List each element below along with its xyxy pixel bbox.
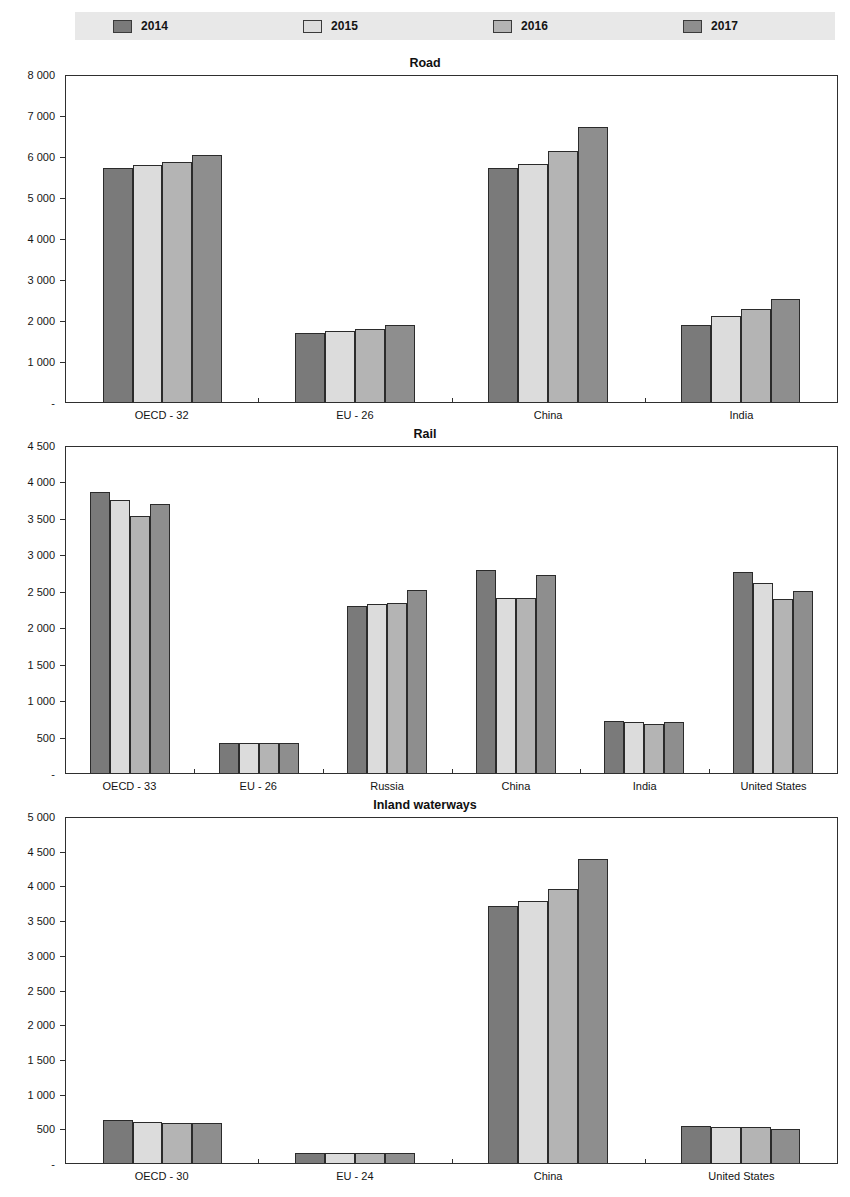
bar-2014[interactable] bbox=[681, 1126, 711, 1163]
y-tick-label: 1 000 bbox=[27, 1089, 55, 1100]
bar-group bbox=[644, 76, 837, 402]
x-axis-road: OECD - 32EU - 26ChinaIndia bbox=[65, 405, 838, 425]
legend-label: 2016 bbox=[521, 20, 548, 32]
bar-2015[interactable] bbox=[711, 316, 741, 402]
bar-2015[interactable] bbox=[133, 165, 163, 402]
x-axis-tick bbox=[323, 769, 324, 774]
bar-2015[interactable] bbox=[518, 901, 548, 1163]
bar-2015[interactable] bbox=[624, 722, 644, 773]
y-tick-label: - bbox=[51, 769, 55, 780]
bar-2017[interactable] bbox=[150, 504, 170, 773]
bars-container bbox=[347, 447, 427, 773]
bar-2014[interactable] bbox=[295, 1153, 325, 1163]
bar-2016[interactable] bbox=[355, 329, 385, 402]
bar-2017[interactable] bbox=[793, 591, 813, 773]
bar-2015[interactable] bbox=[753, 583, 773, 773]
legend-label: 2014 bbox=[141, 20, 168, 32]
bar-2017[interactable] bbox=[664, 722, 684, 773]
chart-block-rail: Rail -5001 0001 5002 0002 5003 0003 5004… bbox=[0, 427, 850, 799]
bar-2016[interactable] bbox=[355, 1153, 385, 1163]
bar-2015[interactable] bbox=[518, 164, 548, 402]
bars-container bbox=[103, 76, 223, 402]
bar-group bbox=[644, 818, 837, 1163]
bar-2016[interactable] bbox=[773, 599, 793, 773]
bar-2015[interactable] bbox=[239, 743, 259, 773]
bar-2016[interactable] bbox=[741, 309, 771, 402]
bar-2015[interactable] bbox=[325, 1153, 355, 1163]
y-tick-label: 4 000 bbox=[27, 477, 55, 488]
bar-2014[interactable] bbox=[295, 333, 325, 402]
chart-block-inland-waterways: Inland waterways -5001 0001 5002 0002 50… bbox=[0, 798, 850, 1188]
bar-2016[interactable] bbox=[741, 1127, 771, 1163]
bar-2016[interactable] bbox=[548, 151, 578, 402]
y-tick-label: 4 500 bbox=[27, 441, 55, 452]
legend-item-2014[interactable]: 2014 bbox=[75, 20, 265, 33]
x-axis-tick bbox=[258, 398, 259, 403]
bar-2016[interactable] bbox=[387, 603, 407, 773]
bar-2017[interactable] bbox=[771, 1129, 801, 1163]
bar-2017[interactable] bbox=[536, 575, 556, 773]
figure-page: 2014201520162017 Road -1 0002 0003 0004 … bbox=[0, 0, 850, 1197]
bar-group bbox=[259, 76, 452, 402]
x-axis-tick bbox=[452, 1159, 453, 1164]
bar-2016[interactable] bbox=[644, 724, 664, 773]
bar-2016[interactable] bbox=[162, 162, 192, 402]
bar-2015[interactable] bbox=[496, 598, 516, 773]
bar-2017[interactable] bbox=[771, 299, 801, 403]
x-tick-label: EU - 24 bbox=[258, 1166, 451, 1186]
bar-2014[interactable] bbox=[90, 492, 110, 773]
bar-2014[interactable] bbox=[681, 325, 711, 402]
bar-group bbox=[323, 447, 452, 773]
bar-2016[interactable] bbox=[259, 743, 279, 773]
legend-item-2017[interactable]: 2017 bbox=[645, 20, 835, 33]
x-axis-tick bbox=[194, 769, 195, 774]
legend-item-2016[interactable]: 2016 bbox=[455, 20, 645, 33]
y-tick-label: 8 000 bbox=[27, 70, 55, 81]
y-tick-label: 2 000 bbox=[27, 1020, 55, 1031]
bar-2015[interactable] bbox=[110, 500, 130, 773]
bar-2014[interactable] bbox=[347, 606, 367, 773]
x-axis-rail: OECD - 33EU - 26RussiaChinaIndiaUnited S… bbox=[65, 776, 838, 796]
bar-group bbox=[66, 76, 259, 402]
bar-2017[interactable] bbox=[407, 590, 427, 773]
y-tick-label: 2 500 bbox=[27, 586, 55, 597]
bars-container bbox=[219, 447, 299, 773]
bar-2017[interactable] bbox=[279, 743, 299, 773]
bar-2014[interactable] bbox=[488, 168, 518, 402]
plot-area-road bbox=[65, 75, 838, 403]
bar-2017[interactable] bbox=[192, 1123, 222, 1163]
bar-2014[interactable] bbox=[488, 906, 518, 1163]
x-axis-tick bbox=[452, 398, 453, 403]
bar-2015[interactable] bbox=[325, 331, 355, 402]
bar-2017[interactable] bbox=[192, 155, 222, 402]
bar-group bbox=[452, 447, 581, 773]
y-tick-label: 1 500 bbox=[27, 1054, 55, 1065]
bar-2016[interactable] bbox=[548, 889, 578, 1163]
bar-2014[interactable] bbox=[476, 570, 496, 773]
bar-2017[interactable] bbox=[578, 859, 608, 1163]
bar-2016[interactable] bbox=[516, 598, 536, 773]
x-axis-tick bbox=[452, 769, 453, 774]
chart-legend: 2014201520162017 bbox=[75, 12, 835, 40]
bar-2015[interactable] bbox=[711, 1127, 741, 1163]
y-tick-label: 4 000 bbox=[27, 881, 55, 892]
bar-2014[interactable] bbox=[103, 168, 133, 402]
bar-2015[interactable] bbox=[367, 604, 387, 773]
bar-2017[interactable] bbox=[385, 1153, 415, 1163]
legend-item-2015[interactable]: 2015 bbox=[265, 20, 455, 33]
bars-container bbox=[681, 818, 801, 1163]
bar-2017[interactable] bbox=[578, 127, 608, 402]
bar-2014[interactable] bbox=[103, 1120, 133, 1163]
bar-2015[interactable] bbox=[133, 1122, 163, 1163]
x-tick-label: United States bbox=[645, 1166, 838, 1186]
bar-2016[interactable] bbox=[162, 1123, 192, 1163]
y-tick-label: 500 bbox=[37, 732, 55, 743]
bar-2017[interactable] bbox=[385, 325, 415, 402]
x-tick-label: India bbox=[645, 405, 838, 425]
bar-2014[interactable] bbox=[733, 572, 753, 773]
bar-2016[interactable] bbox=[130, 516, 150, 773]
x-tick-label: India bbox=[580, 776, 709, 796]
bar-2014[interactable] bbox=[604, 721, 624, 773]
x-tick-label: OECD - 33 bbox=[65, 776, 194, 796]
bar-2014[interactable] bbox=[219, 743, 239, 773]
